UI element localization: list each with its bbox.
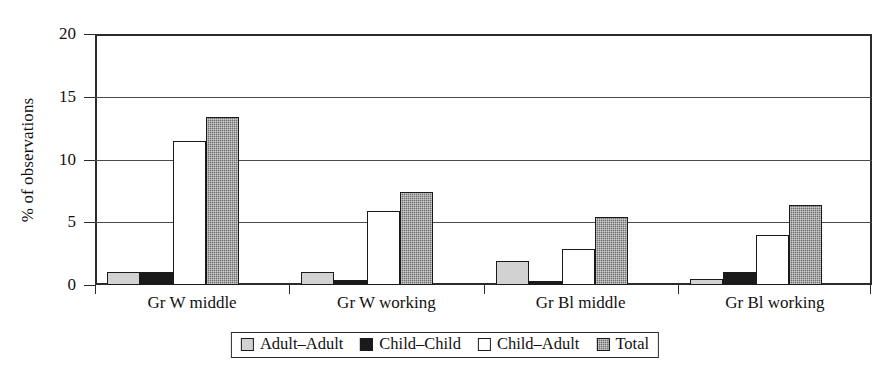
bar-child-child-3 <box>723 272 756 285</box>
black-square-icon <box>360 338 373 351</box>
y-tick-mark-5 <box>84 222 95 223</box>
bar-total-0 <box>206 117 239 285</box>
bar-child-adult-1 <box>367 211 400 285</box>
bar-chart: % of observations 05101520 Gr W middleGr… <box>0 0 890 381</box>
bar-total-1 <box>400 192 433 285</box>
y-tick-mark-15 <box>84 97 95 98</box>
y-tick-label-15: 15 <box>30 88 76 105</box>
legend-label-adult-adult: Adult–Adult <box>260 336 343 353</box>
y-tick-label-20: 20 <box>30 25 76 42</box>
dark-gray-hatched-square-icon <box>596 338 609 351</box>
bar-child-adult-3 <box>756 235 789 285</box>
white-square-icon <box>478 338 491 351</box>
y-tick-mark-10 <box>84 160 95 161</box>
legend-label-total: Total <box>615 336 649 353</box>
x-axis-label-0: Gr W middle <box>95 293 289 313</box>
bar-child-child-1 <box>334 280 367 285</box>
bar-adult-adult-3 <box>690 279 723 285</box>
bar-adult-adult-1 <box>301 272 334 285</box>
y-axis-ticks: 05101520 <box>0 0 95 381</box>
legend-item-total[interactable]: Total <box>596 336 649 353</box>
y-tick-mark-20 <box>84 34 95 35</box>
x-axis-label-2: Gr Bl middle <box>484 293 678 313</box>
y-tick-label-0: 0 <box>30 276 76 293</box>
light-gray-square-icon <box>241 338 254 351</box>
bar-child-child-2 <box>529 281 562 285</box>
plot-area <box>95 34 872 285</box>
x-axis-label-3: Gr Bl working <box>678 293 872 313</box>
x-axis-labels: Gr W middleGr W workingGr Bl middleGr Bl… <box>95 293 872 319</box>
bar-total-3 <box>789 205 822 285</box>
legend-label-child-child: Child–Child <box>379 336 461 353</box>
bar-child-child-0 <box>140 272 173 285</box>
bar-adult-adult-0 <box>107 272 140 285</box>
legend-item-child-adult[interactable]: Child–Adult <box>478 336 580 353</box>
x-axis-label-1: Gr W working <box>289 293 483 313</box>
y-tick-mark-0 <box>84 285 95 286</box>
bar-child-adult-0 <box>173 141 206 285</box>
legend-label-child-adult: Child–Adult <box>497 336 580 353</box>
bar-total-2 <box>595 217 628 285</box>
y-tick-label-5: 5 <box>30 213 76 230</box>
y-tick-label-10: 10 <box>30 151 76 168</box>
bar-child-adult-2 <box>562 249 595 285</box>
bar-series-container <box>95 34 872 285</box>
legend-item-child-child[interactable]: Child–Child <box>360 336 461 353</box>
legend-item-adult-adult[interactable]: Adult–Adult <box>241 336 343 353</box>
bar-adult-adult-2 <box>496 261 529 285</box>
chart-legend: Adult–AdultChild–ChildChild–AdultTotal <box>231 332 659 358</box>
